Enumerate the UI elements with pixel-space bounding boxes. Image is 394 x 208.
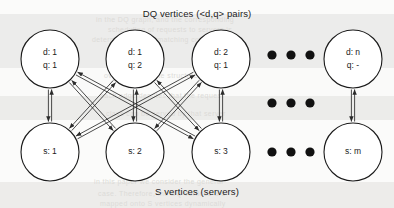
vertex-label-line1: d: 2 [214, 47, 228, 57]
dq-vertex-dq2[interactable]: d: 1q: 2 [106, 30, 164, 88]
edge-dq2-s1 [69, 80, 115, 130]
ellipsis-dot [267, 98, 276, 107]
vertex-label-line1: d: n [346, 47, 360, 57]
vertex-label-line1: d: 1 [43, 47, 57, 57]
ellipsis-dot [267, 50, 276, 59]
s-vertex-s2[interactable]: s: 2 [106, 123, 164, 181]
ellipsis-dot [305, 50, 314, 59]
ellipsis-dot [305, 147, 314, 156]
ellipsis-dot [286, 147, 295, 156]
dq-vertex-dqn[interactable]: d: nq: - [324, 30, 382, 88]
vertex-label-line2: q: 1 [214, 60, 228, 70]
ellipsis-dot [286, 98, 295, 107]
dq-vertex-dq1[interactable]: d: 1q: 1 [21, 30, 79, 88]
vertex-circle[interactable] [21, 30, 79, 88]
node-layer: d: 1q: 1d: 1q: 2d: 2q: 1d: nq: -s: 1s: 2… [21, 30, 382, 181]
s-vertex-s1[interactable]: s: 1 [21, 123, 79, 181]
ellipsis-top [267, 50, 314, 59]
vertex-label-line1: s: 3 [214, 146, 228, 156]
edge-dqn-sm [351, 90, 354, 122]
s-vertices-caption: S vertices (servers) [0, 186, 394, 197]
ellipsis-bottom [267, 147, 314, 156]
vertex-label-line1: s: m [345, 146, 361, 156]
ellipsis-dot [267, 147, 276, 156]
vertex-circle[interactable] [192, 30, 250, 88]
ellipsis-middle [267, 98, 314, 107]
vertex-label-line1: s: 1 [43, 146, 57, 156]
s-vertex-s3[interactable]: s: 3 [192, 123, 250, 181]
vertex-circle[interactable] [106, 30, 164, 88]
dq-vertex-dq3[interactable]: d: 2q: 1 [192, 30, 250, 88]
vertex-label-line1: s: 2 [128, 146, 142, 156]
vertex-label-line2: q: - [347, 60, 359, 70]
bipartite-graph: d: 1q: 1d: 1q: 2d: 2q: 1d: nq: -s: 1s: 2… [0, 0, 394, 208]
ellipsis-dot [286, 50, 295, 59]
edge-dq2-s3 [155, 80, 202, 130]
ellipsis-dot [305, 98, 314, 107]
vertex-label-line2: q: 2 [128, 60, 142, 70]
ellipsis-layer [267, 50, 314, 156]
vertex-label-line1: d: 1 [128, 47, 142, 57]
edge-dq1-s2 [69, 80, 115, 130]
edge-dq3-s3 [219, 90, 222, 122]
s-vertex-sm[interactable]: s: m [324, 123, 382, 181]
vertex-circle[interactable] [324, 30, 382, 88]
figure-canvas: in the DQ graph, and the correspondingsc… [0, 0, 394, 208]
edge-dq3-s2 [155, 80, 202, 130]
vertex-label-line2: q: 1 [43, 60, 57, 70]
edge-dq1-s1 [48, 90, 51, 122]
edge-dq2-s2 [133, 90, 136, 122]
